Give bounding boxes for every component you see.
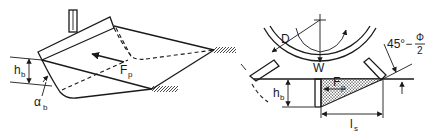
force-label: F — [120, 63, 127, 77]
diameter-label: D — [281, 32, 290, 46]
phi-numerator: Φ — [416, 32, 424, 43]
sleeper-height-label: h — [273, 86, 280, 100]
blade-perspective-view: F p h b α b — [10, 10, 236, 112]
sleeper-height-subscript: b — [280, 93, 285, 102]
right-saddle-strap — [364, 58, 386, 80]
left-saddle-strap — [250, 60, 279, 81]
wedge-length-label: l — [350, 117, 353, 131]
sleeper-post — [315, 79, 321, 107]
height-label: h — [14, 63, 21, 77]
blade-top-plate — [38, 17, 114, 60]
pipe-section-view: W D F p h b l s 45°− Φ 2 — [241, 14, 425, 133]
diagram-canvas: F p h b α b W — [0, 0, 435, 133]
angle-label: α — [34, 95, 41, 109]
angle-expression-label: 45°− — [387, 37, 412, 51]
height-subscript: b — [21, 70, 26, 79]
diameter-line — [272, 20, 320, 52]
force-arrow — [92, 54, 124, 62]
wedge-force-label: F — [333, 75, 340, 89]
blade-post — [69, 10, 77, 32]
wedge-force-subscript: p — [341, 83, 346, 92]
angle-subscript: b — [43, 103, 48, 112]
anchor-hatch-upper — [214, 47, 236, 53]
rotation-arrow — [296, 28, 346, 52]
wedge-length-subscript: s — [354, 124, 358, 133]
soil-wedge — [321, 79, 383, 107]
phi-denominator: 2 — [417, 45, 423, 56]
force-subscript: p — [128, 70, 133, 79]
weight-label: W — [313, 61, 325, 75]
anchor-hatch-lower — [152, 86, 178, 92]
